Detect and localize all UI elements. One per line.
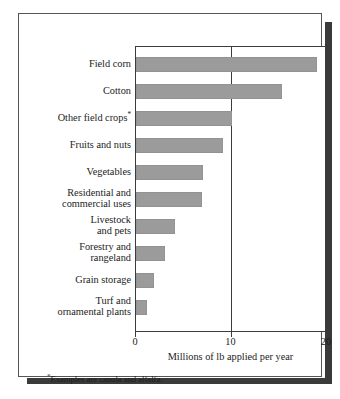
category-label: Vegetables	[19, 166, 131, 178]
bar	[136, 273, 154, 288]
category-label: Field corn	[19, 58, 131, 70]
bar	[136, 111, 232, 126]
figure-shadow-right	[325, 22, 332, 384]
category-label: Livestockand pets	[19, 214, 131, 237]
figure-frame: Field cornCottonOther field crops*Fruits…	[18, 13, 322, 377]
bar-fill	[136, 246, 165, 261]
category-label: Turf andornamental plants	[19, 295, 131, 318]
figure-footnote: *Examples are canola and alfalfa.	[47, 374, 162, 384]
category-label-line: Fruits and nuts	[19, 139, 131, 151]
category-label-line: ornamental plants	[19, 306, 131, 318]
bar-fill	[136, 57, 317, 72]
category-label: Residential andcommercial uses	[19, 187, 131, 210]
category-label: Grain storage	[19, 274, 131, 286]
bar	[136, 138, 223, 153]
bar-fill	[136, 111, 232, 126]
footnote-text: Examples are canola and alfalfa.	[51, 374, 163, 384]
category-label-line: and pets	[19, 225, 131, 237]
bar	[136, 192, 202, 207]
category-label-line: Turf and	[19, 295, 131, 307]
bar	[136, 246, 165, 261]
category-label-line: Residential and	[19, 187, 131, 199]
bar-fill	[136, 84, 282, 99]
bar	[136, 84, 282, 99]
category-label-line: rangeland	[19, 252, 131, 264]
category-label-line: Other field crops*	[19, 112, 131, 124]
category-label-line: commercial uses	[19, 198, 131, 210]
bar	[136, 300, 147, 315]
category-label: Forestry andrangeland	[19, 241, 131, 264]
category-label-line: Forestry and	[19, 241, 131, 253]
category-label: Cotton	[19, 85, 131, 97]
category-label-line: Cotton	[19, 85, 131, 97]
x-axis-title: Millions of lb applied per year	[135, 351, 326, 362]
x-tick-label: 20	[311, 336, 340, 347]
bar-fill	[136, 219, 175, 234]
x-tick-label: 0	[120, 336, 150, 347]
bar	[136, 57, 317, 72]
category-label-line: Field corn	[19, 58, 131, 70]
bar-fill	[136, 138, 223, 153]
category-label-line: Grain storage	[19, 274, 131, 286]
bar-fill	[136, 273, 154, 288]
x-tick-label: 10	[216, 336, 246, 347]
category-label: Other field crops*	[19, 112, 131, 124]
bar	[136, 165, 203, 180]
category-label-line: Vegetables	[19, 166, 131, 178]
bar-fill	[136, 192, 202, 207]
category-label: Fruits and nuts	[19, 139, 131, 151]
category-axis-labels: Field cornCottonOther field crops*Fruits…	[19, 46, 131, 332]
footnote-marker-inline: *	[127, 110, 131, 118]
bar	[136, 219, 175, 234]
category-label-line: Livestock	[19, 214, 131, 226]
bar-fill	[136, 300, 147, 315]
bar-fill	[136, 165, 203, 180]
plot-area	[135, 46, 326, 332]
